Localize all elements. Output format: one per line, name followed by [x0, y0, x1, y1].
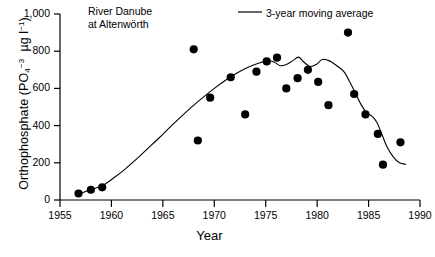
data-point-marker [379, 161, 387, 169]
x-tick-label: 1965 [141, 209, 185, 221]
x-tick-label: 1985 [347, 209, 391, 221]
data-point-marker [194, 136, 202, 144]
y-tick-label: 1,000 [0, 7, 50, 19]
y-tick-label: 600 [0, 81, 50, 93]
data-point-marker [314, 78, 322, 86]
chart-annotation-site: River Danube at Altenwörth [88, 5, 152, 30]
axes [60, 14, 420, 200]
data-point-marker [294, 74, 302, 82]
data-point-marker [241, 110, 249, 118]
data-point-marker [252, 68, 260, 76]
data-point-marker [206, 94, 214, 102]
y-axis-label-superscript: −3 [17, 59, 26, 68]
x-tick-label: 1990 [398, 209, 435, 221]
y-tick-label: 800 [0, 44, 50, 56]
x-axis-label: Year [0, 228, 435, 243]
y-axis-unit-exponent: −1 [17, 21, 26, 30]
data-point-marker [374, 130, 382, 138]
data-point-marker [273, 54, 281, 62]
data-point-marker [350, 90, 358, 98]
y-tick-label: 200 [0, 156, 50, 168]
x-tick-label: 1975 [244, 209, 288, 221]
y-axis-label: Orthophosphate (PO4−3 µg l−1) [17, 0, 32, 209]
x-axis-label-text: Year [196, 228, 222, 243]
y-axis-label-subscript: 4 [23, 68, 32, 73]
data-point-marker [87, 186, 95, 194]
x-tick-label: 1970 [192, 209, 236, 221]
x-tick-label: 1960 [89, 209, 133, 221]
chart-figure: Orthophosphate (PO4−3 µg l−1) Year River… [0, 0, 435, 257]
data-point-marker [361, 110, 369, 118]
data-point-markers [74, 28, 404, 197]
x-tick-label: 1955 [38, 209, 82, 221]
legend-label-moving-average: 3-year moving average [266, 7, 373, 19]
data-point-marker [282, 84, 290, 92]
data-point-marker [324, 101, 332, 109]
data-point-marker [304, 66, 312, 74]
data-point-marker [227, 73, 235, 81]
data-point-marker [263, 57, 271, 65]
data-point-marker [344, 28, 352, 36]
x-tick-marks [60, 200, 420, 207]
y-tick-marks [54, 14, 60, 200]
x-tick-label: 1980 [295, 209, 339, 221]
y-tick-label: 0 [0, 193, 50, 205]
y-tick-label: 400 [0, 119, 50, 131]
data-point-marker [98, 183, 106, 191]
data-point-marker [74, 189, 82, 197]
moving-average-line [80, 57, 406, 194]
data-point-marker [190, 45, 198, 53]
data-point-marker [396, 138, 404, 146]
moving-average-path [80, 57, 406, 194]
